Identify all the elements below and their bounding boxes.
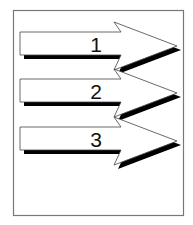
arrow-2-label: 2 [90, 80, 102, 103]
arrow-3-label: 3 [90, 128, 102, 151]
diagram-canvas: 1 2 3 [0, 0, 193, 225]
arrow-1-label: 1 [90, 33, 102, 56]
